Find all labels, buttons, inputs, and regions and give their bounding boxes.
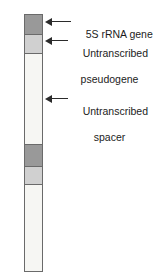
callout-pseudogene-arrowhead: [45, 37, 52, 45]
callout-pseudogene-leader-line: [52, 40, 68, 41]
callout-gene-leader-line: [52, 21, 71, 22]
repeat-unit-bar: [24, 14, 43, 272]
segment-untranscribed-spacer-2: [25, 184, 42, 272]
callout-spacer-arrowhead: [45, 95, 52, 103]
segment-untranscribed-spacer-1: [25, 53, 42, 144]
rdna-repeat-diagram: 5S rRNA gene Untranscribed pseudogene Un…: [0, 0, 165, 278]
callout-pseudogene-label-line2: pseudogene: [71, 73, 148, 86]
segment-5s-rrna-gene-2: [25, 144, 42, 166]
segment-untranscribed-pseudogene-2: [25, 166, 42, 184]
segment-5s-rrna-gene-1: [25, 15, 42, 34]
callout-spacer-leader-line: [52, 98, 68, 99]
callout-gene-arrowhead: [45, 18, 52, 26]
segment-untranscribed-pseudogene-1: [25, 34, 42, 53]
callout-spacer-label-line2: spacer: [71, 131, 148, 144]
callout-pseudogene-label-line1: Untranscribed: [83, 47, 148, 59]
callout-spacer-label-line1: Untranscribed: [83, 105, 148, 117]
callout-spacer-label: Untranscribed spacer: [71, 92, 148, 170]
